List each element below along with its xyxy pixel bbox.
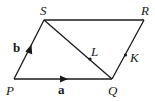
label-q: Q [108,83,118,98]
diagonal-sq [44,20,112,79]
label-r: R [140,3,149,18]
label-vector-b: b [13,40,20,55]
parallelogram-diagram: S R P Q L K a b [0,0,155,102]
vector-b-arrow-icon [25,45,32,55]
label-s: S [40,3,47,18]
edge-qr [112,20,144,79]
label-vector-a: a [58,82,65,97]
label-k: K [129,50,140,65]
label-p: P [5,83,14,98]
point-k-dot [124,53,127,56]
label-l: L [90,44,98,59]
